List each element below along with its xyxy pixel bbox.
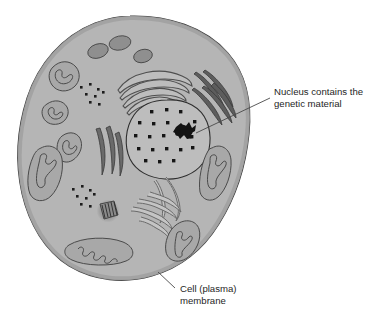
nucleus-label-line1: Nucleus contains the [274, 86, 363, 97]
membrane-label-line1: Cell (plasma) [180, 283, 237, 294]
nucleus-label-line2: genetic material [274, 98, 342, 109]
cell-diagram-canvas: Nucleus contains the genetic material Ce… [0, 0, 376, 317]
label-membrane: Cell (plasma) membrane [180, 283, 237, 306]
cell-diagram: Nucleus contains the genetic material Ce… [0, 0, 376, 317]
nucleus [126, 100, 210, 179]
membrane-label-line2: membrane [180, 295, 226, 306]
mitochondrion [42, 101, 68, 124]
mitochondrion [65, 238, 133, 265]
label-nucleus: Nucleus contains the genetic material [274, 86, 363, 109]
nuclear-envelope [126, 100, 210, 179]
mitochondrion [49, 62, 79, 91]
centriole [97, 200, 120, 223]
membrane-leader-line [158, 272, 175, 288]
